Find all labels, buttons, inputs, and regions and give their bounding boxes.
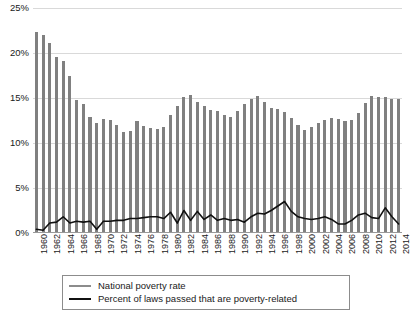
x-tick-label-1986: 1986 (214, 234, 223, 254)
x-tick-label-2006: 2006 (348, 234, 357, 254)
x-tick-label-1970: 1970 (107, 234, 116, 254)
legend-item-poverty-related-laws: Percent of laws passed that are poverty-… (69, 292, 343, 305)
x-tick-label-1960: 1960 (40, 234, 49, 254)
legend-item-national-poverty-rate: National poverty rate (69, 279, 343, 292)
x-tick-label-1976: 1976 (147, 234, 156, 254)
x-tick-label-1988: 1988 (228, 234, 237, 254)
y-tick-label-10: 10% (10, 138, 29, 148)
x-tick-label-1966: 1966 (80, 234, 89, 254)
x-tick-label-2010: 2010 (375, 234, 384, 254)
plot-area (33, 8, 402, 233)
legend-swatch-icon-black (69, 298, 91, 300)
x-tick-label-2014: 2014 (402, 234, 410, 254)
x-tick-label-2012: 2012 (389, 234, 398, 254)
y-axis: 0%5%10%15%20%25% (0, 0, 33, 241)
x-tick-label-1974: 1974 (134, 234, 143, 254)
x-tick-label-1968: 1968 (94, 234, 103, 254)
x-tick-label-1972: 1972 (120, 234, 129, 254)
x-tick-label-1980: 1980 (174, 234, 183, 254)
x-tick-label-2004: 2004 (335, 234, 344, 254)
legend-label-poverty-related-laws: Percent of laws passed that are poverty-… (98, 293, 297, 304)
x-tick-label-1990: 1990 (241, 234, 250, 254)
x-tick-label-1984: 1984 (201, 234, 210, 254)
x-axis: 1960196219641966196819701972197419761978… (33, 234, 402, 274)
x-tick-label-2002: 2002 (322, 234, 331, 254)
y-tick-label-25: 25% (10, 3, 29, 13)
y-tick-label-20: 20% (10, 48, 29, 58)
x-tick-label-1978: 1978 (161, 234, 170, 254)
x-tick-label-2008: 2008 (362, 234, 371, 254)
x-tick-label-1998: 1998 (295, 234, 304, 254)
line-series-poverty-related-laws (33, 8, 402, 232)
y-tick-label-15: 15% (10, 93, 29, 103)
x-tick-label-1994: 1994 (268, 234, 277, 254)
x-tick-label-2000: 2000 (308, 234, 317, 254)
poverty-laws-polyline (36, 202, 398, 231)
line-series-svg (33, 8, 402, 232)
x-tick-label-1982: 1982 (187, 234, 196, 254)
y-tick-label-0: 0% (15, 228, 29, 238)
x-tick-label-1992: 1992 (255, 234, 264, 254)
x-tick-label-1964: 1964 (67, 234, 76, 254)
x-tick-label-1996: 1996 (281, 234, 290, 254)
legend: National poverty rate Percent of laws pa… (62, 275, 350, 310)
x-tick-label-1962: 1962 (53, 234, 62, 254)
legend-swatch-icon-gray (69, 285, 91, 287)
legend-label-national-poverty-rate: National poverty rate (98, 280, 186, 291)
y-tick-label-5: 5% (15, 183, 29, 193)
